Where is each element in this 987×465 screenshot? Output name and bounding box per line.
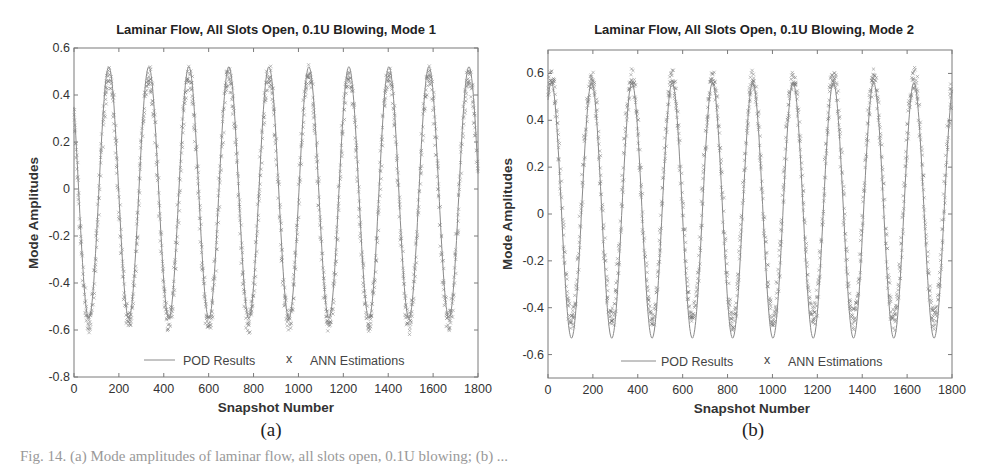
chart-a-plot-area: 0.60.40.20-0.2-0.4-0.6-0.8 0200400600800… <box>48 41 491 396</box>
x-tick-label: 1400 <box>848 383 876 397</box>
chart-b-title: Laminar Flow, All Slots Open, 0.1U Blowi… <box>594 22 914 37</box>
x-tick-label: 1800 <box>938 383 966 397</box>
legend-ann-label: ANN Estimations <box>788 355 882 369</box>
y-tick-label: -0.6 <box>48 323 70 337</box>
x-tick-label: 400 <box>627 383 648 397</box>
y-tick-label: -0.2 <box>48 229 70 243</box>
chart-a-ylabel: Mode Amplitudes <box>26 157 41 269</box>
y-tick-label: 0.4 <box>53 88 70 102</box>
x-tick-label: 400 <box>153 382 174 396</box>
x-tick-label: 1200 <box>329 382 357 396</box>
legend-x-marker-icon: x <box>764 353 771 367</box>
x-tick-label: 600 <box>198 382 219 396</box>
x-tick-label: 200 <box>582 383 603 397</box>
chart-a-xlabel: Snapshot Number <box>218 400 335 415</box>
y-tick-label: 0 <box>63 182 70 196</box>
chart-b-xlabel: Snapshot Number <box>694 401 811 416</box>
x-tick-label: 1000 <box>759 383 787 397</box>
legend-ann-label: ANN Estimations <box>310 354 404 368</box>
x-tick-label: 1200 <box>803 383 831 397</box>
y-tick-label: 0 <box>537 207 544 221</box>
y-tick-label: 0.6 <box>527 66 544 80</box>
y-tick-label: 0.2 <box>53 135 70 149</box>
y-tick-label: 0.6 <box>53 41 70 55</box>
y-tick-label: -0.2 <box>522 254 544 268</box>
y-tick-label: -0.4 <box>522 301 544 315</box>
y-tick-label: -0.8 <box>48 370 70 384</box>
x-tick-label: 800 <box>717 383 738 397</box>
chart-b-svg: Laminar Flow, All Slots Open, 0.1U Blowi… <box>493 0 987 460</box>
x-tick-label: 0 <box>71 382 78 396</box>
chart-panel-a: Laminar Flow, All Slots Open, 0.1U Blowi… <box>0 0 493 460</box>
chart-b-ylabel: Mode Amplitudes <box>500 158 515 270</box>
x-tick-label: 200 <box>108 382 129 396</box>
chart-a-svg: Laminar Flow, All Slots Open, 0.1U Blowi… <box>0 0 493 460</box>
legend-x-marker-icon: x <box>286 352 293 366</box>
legend-pod-label: POD Results <box>661 355 733 369</box>
x-tick-label: 1600 <box>893 383 921 397</box>
x-tick-label: 1800 <box>464 382 492 396</box>
figure-caption: Fig. 14. (a) Mode amplitudes of laminar … <box>20 448 508 465</box>
y-tick-label: -0.4 <box>48 276 70 290</box>
x-tick-label: 600 <box>672 383 693 397</box>
chart-b-plot-area: 0.60.40.20-0.2-0.4-0.6 02004006008001000… <box>522 50 965 397</box>
x-tick-label: 1400 <box>374 382 402 396</box>
legend-pod-label: POD Results <box>183 354 255 368</box>
x-tick-label: 800 <box>243 382 264 396</box>
y-tick-label: -0.6 <box>522 348 544 362</box>
x-tick-label: 1600 <box>419 382 447 396</box>
x-tick-label: 0 <box>545 383 552 397</box>
chart-panel-b: Laminar Flow, All Slots Open, 0.1U Blowi… <box>493 0 987 460</box>
chart-b-sublabel: (b) <box>742 419 764 441</box>
chart-a-title: Laminar Flow, All Slots Open, 0.1U Blowi… <box>116 22 436 37</box>
chart-a-sublabel: (a) <box>260 419 281 441</box>
x-tick-label: 1000 <box>285 382 313 396</box>
y-tick-label: 0.4 <box>527 113 544 127</box>
y-tick-label: 0.2 <box>527 160 544 174</box>
